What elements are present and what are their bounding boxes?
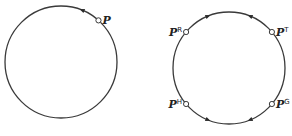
- point-label: P: [101, 14, 111, 27]
- point-marker: [269, 101, 274, 106]
- point-marker: [184, 29, 189, 34]
- point-label: PH: [168, 98, 183, 111]
- point-label: PT: [275, 26, 289, 39]
- orbit-circle: [173, 12, 285, 124]
- point-label: PG: [275, 98, 290, 111]
- point-marker: [184, 101, 189, 106]
- right-circle-panel: PRPTPHPG: [168, 12, 290, 124]
- point-marker: [269, 29, 274, 34]
- left-circle-panel: P: [5, 6, 117, 118]
- diagram-canvas: P PRPTPHPG: [0, 0, 292, 136]
- point-marker: [96, 18, 101, 23]
- point-label: PR: [168, 26, 182, 39]
